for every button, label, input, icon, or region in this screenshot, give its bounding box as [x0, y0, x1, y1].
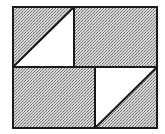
quilt-diagram: [0, 0, 165, 134]
